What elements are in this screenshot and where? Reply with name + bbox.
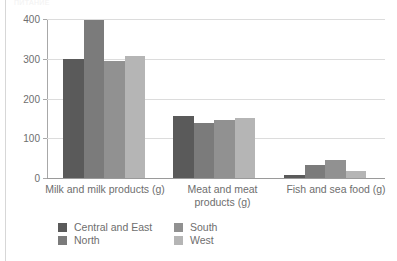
y-axis-tick-label: 0 — [34, 173, 40, 184]
bar — [284, 175, 305, 178]
legend-swatch-icon — [174, 236, 183, 245]
legend-label: West — [190, 234, 214, 246]
bar-group — [63, 19, 145, 178]
bar — [104, 61, 125, 178]
bar — [125, 56, 146, 178]
bar — [325, 160, 346, 178]
x-axis-category-label: Fish and sea food (g) — [281, 183, 391, 196]
y-axis-tick-mark — [43, 138, 47, 139]
y-axis-tick-labels: 0100200300400 — [0, 19, 40, 178]
y-axis-tick-label: 100 — [23, 133, 40, 144]
bar-group — [284, 19, 366, 178]
legend-label: South — [190, 221, 217, 233]
y-axis-tick-mark — [43, 59, 47, 60]
legend-row: NorthWest — [58, 234, 288, 247]
y-axis-tick-label: 400 — [23, 14, 40, 25]
x-axis-category-label: Milk and milk products (g) — [30, 183, 180, 196]
bar — [194, 123, 215, 178]
y-axis-tick-mark — [43, 19, 47, 20]
legend-item[interactable]: North — [58, 234, 174, 246]
legend-label: Central and East — [74, 221, 152, 233]
axis-baseline — [47, 178, 385, 179]
legend-item[interactable]: South — [174, 221, 217, 233]
y-axis-tick-label: 300 — [23, 53, 40, 64]
bar — [305, 165, 326, 178]
y-axis-tick-label: 200 — [23, 93, 40, 104]
bar-group — [173, 19, 255, 178]
legend-label: North — [74, 234, 100, 246]
bar — [235, 118, 256, 178]
y-axis-tick-mark — [43, 99, 47, 100]
legend-item[interactable]: West — [174, 234, 214, 246]
legend-item[interactable]: Central and East — [58, 221, 174, 233]
bar — [214, 120, 235, 178]
y-axis-tick-mark — [43, 178, 47, 179]
legend-row: Central and EastSouth — [58, 221, 288, 234]
bar — [84, 20, 105, 178]
legend-swatch-icon — [174, 223, 183, 232]
x-axis-category-label: Meat and meat products (g) — [170, 183, 275, 208]
bar — [173, 116, 194, 178]
plot-area — [47, 19, 385, 178]
bar — [346, 171, 367, 178]
legend-swatch-icon — [58, 236, 67, 245]
chart-legend: Central and EastSouthNorthWest — [58, 221, 288, 247]
legend-swatch-icon — [58, 223, 67, 232]
bar — [63, 59, 84, 178]
